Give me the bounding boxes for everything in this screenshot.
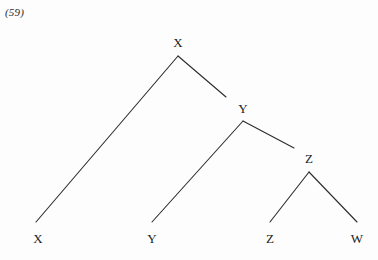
- figure-container: (59) X Y Z X Y Z W: [0, 0, 378, 260]
- tree-branches-svg: [0, 0, 378, 260]
- root-to-left-terminal-X: [36, 56, 178, 222]
- low-to-terminal-W: [309, 172, 357, 222]
- node-root-X: X: [173, 36, 182, 49]
- node-mid-Y: Y: [238, 102, 247, 115]
- terminal-Z: Z: [266, 232, 274, 245]
- mid-to-low-Z: [243, 121, 294, 148]
- mid-to-left-terminal-Y: [152, 121, 243, 222]
- node-low-Z: Z: [305, 152, 313, 165]
- terminal-X: X: [33, 232, 42, 245]
- root-to-mid-Y: [178, 56, 226, 97]
- terminal-W: W: [351, 232, 363, 245]
- terminal-Y: Y: [147, 232, 156, 245]
- branch-group: [36, 56, 357, 222]
- low-to-terminal-Z: [270, 172, 309, 222]
